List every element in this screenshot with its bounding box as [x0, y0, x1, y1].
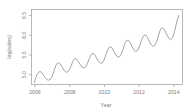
- y-axis-ticks: [29, 15, 32, 74]
- y-tick-label: 6.0: [21, 31, 27, 38]
- y-axis-tick-labels: 5.05.56.06.5: [21, 12, 27, 79]
- x-tick-label: 2012: [133, 89, 145, 95]
- data-series: [34, 15, 179, 82]
- line-chart: 20062008201020122014 5.05.56.06.5 Year l…: [0, 0, 195, 112]
- y-tick-label: 6.5: [21, 12, 27, 19]
- plot-frame: [32, 10, 183, 85]
- x-tick-label: 2008: [64, 89, 76, 95]
- x-axis-ticks: [35, 85, 174, 88]
- x-tick-label: 2014: [168, 89, 180, 95]
- x-tick-label: 2010: [99, 89, 111, 95]
- y-axis-title: log(sales): [6, 35, 12, 59]
- y-tick-label: 5.5: [21, 51, 27, 58]
- x-axis-title: Year: [101, 102, 112, 108]
- series-line: [34, 15, 179, 82]
- y-tick-label: 5.0: [21, 71, 27, 78]
- x-tick-label: 2006: [29, 89, 41, 95]
- x-axis-tick-labels: 20062008201020122014: [29, 89, 180, 95]
- chart-figure: 20062008201020122014 5.05.56.06.5 Year l…: [0, 0, 195, 112]
